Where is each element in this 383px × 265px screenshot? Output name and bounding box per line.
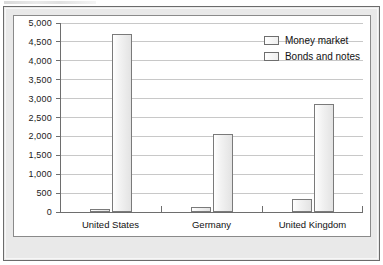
- category-label: United Kingdom: [262, 219, 363, 230]
- bar-money-market: [191, 207, 211, 212]
- x-tick-mark: [262, 206, 263, 212]
- bar-group: [60, 23, 161, 212]
- y-tick-label: 1,000: [28, 169, 52, 179]
- scan-artifact-smudge: [4, 1, 96, 4]
- bar-money-market: [90, 209, 110, 212]
- plot-frame: 05001,0001,5002,0002,5003,0003,5004,0004…: [13, 15, 371, 237]
- y-tick-label: 3,500: [28, 75, 52, 85]
- bar-bonds-and-notes: [112, 34, 132, 212]
- legend-item[interactable]: Bonds and notes: [264, 51, 360, 62]
- bar-money-market: [292, 199, 312, 212]
- x-tick-mark: [362, 206, 363, 212]
- bar-bonds-and-notes: [314, 104, 334, 212]
- y-tick-label: 4,500: [28, 37, 52, 47]
- scan-artifact-strip: [0, 0, 383, 5]
- chart-screenshot: 05001,0001,5002,0002,5003,0003,5004,0004…: [0, 0, 383, 265]
- y-tick-label: 2,500: [28, 113, 52, 123]
- y-tick-label: 4,000: [28, 56, 52, 66]
- legend-label: Money market: [285, 35, 348, 46]
- legend-item[interactable]: Money market: [264, 35, 360, 46]
- y-tick-label: 0: [47, 207, 52, 217]
- x-tick-mark: [161, 206, 162, 212]
- legend-swatch-icon: [264, 52, 279, 61]
- y-tick-label: 5,000: [28, 18, 52, 28]
- y-tick-label: 500: [36, 188, 52, 198]
- y-tick-label: 3,000: [28, 94, 52, 104]
- y-tick-label: 2,000: [28, 131, 52, 141]
- y-tick-label: 1,500: [28, 150, 52, 160]
- category-label: Germany: [161, 219, 262, 230]
- bar-bonds-and-notes: [213, 134, 233, 212]
- chart-legend: Money marketBonds and notes: [264, 35, 360, 62]
- chart-card: 05001,0001,5002,0002,5003,0003,5004,0004…: [3, 6, 380, 261]
- legend-label: Bonds and notes: [285, 51, 360, 62]
- bar-group: [161, 23, 262, 212]
- legend-swatch-icon: [264, 36, 279, 45]
- category-label: United States: [60, 219, 161, 230]
